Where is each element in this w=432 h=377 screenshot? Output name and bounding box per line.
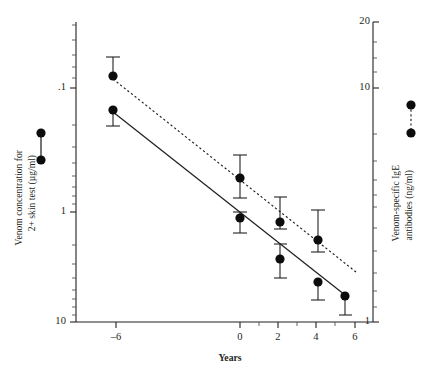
- x-tick-label-4: 6: [340, 331, 370, 342]
- right-axis-title-line1: Venom-specific IgE: [389, 165, 402, 241]
- data-point: [340, 291, 349, 300]
- skin-test-point-group: [233, 212, 247, 233]
- x-tick-label-1: 0: [225, 331, 255, 342]
- right-axis-major-ticks: [373, 22, 379, 322]
- right-axis-minor-ticks: [373, 42, 377, 307]
- x-tick-label-3: 4: [301, 331, 331, 342]
- data-point: [108, 105, 117, 114]
- right-tick-label-2: 1: [342, 315, 370, 326]
- data-point: [275, 217, 284, 226]
- data-point: [313, 277, 322, 286]
- left-tick-label-0: .1: [34, 81, 66, 92]
- x-tick-label-2: 2: [263, 331, 293, 342]
- left-axis-minor-ticks: [72, 25, 76, 315]
- skin-test-point-group: [339, 291, 352, 315]
- left-axis-title-line2: 2+ skin test (µg/ml): [25, 155, 38, 231]
- left-axis-major-ticks: [70, 88, 76, 322]
- x-axis-title: Years: [190, 352, 270, 363]
- skin-test-fit-line: [113, 112, 345, 295]
- ige-point-group: [106, 57, 120, 81]
- ige-point-group: [274, 197, 287, 229]
- skin-test-point-group: [311, 277, 325, 300]
- left-axis-title-line1: Venom concentration for: [12, 150, 25, 245]
- data-point: [108, 71, 117, 80]
- right-axis-title-line2: antibodies (ng/ml): [402, 170, 415, 241]
- left-tick-label-2: 10: [34, 315, 66, 326]
- left-tick-label-1: 1: [34, 205, 66, 216]
- data-point: [235, 173, 244, 182]
- skin-test-point-group: [274, 244, 287, 278]
- ige-series: [106, 57, 325, 252]
- figure-canvas: .1 1 10 20 10 1 –6 0 2 4 6 Years Venom c…: [0, 0, 432, 377]
- ige-point-group: [233, 155, 247, 198]
- data-point: [235, 213, 244, 222]
- x-axis-ticks: [116, 322, 355, 328]
- data-point: [275, 254, 284, 263]
- data-point: [313, 235, 322, 244]
- right-tick-label-0: 20: [342, 15, 370, 26]
- dashed-series-key: [406, 100, 415, 137]
- x-tick-label-0: –6: [101, 331, 131, 342]
- right-tick-label-1: 10: [342, 81, 370, 92]
